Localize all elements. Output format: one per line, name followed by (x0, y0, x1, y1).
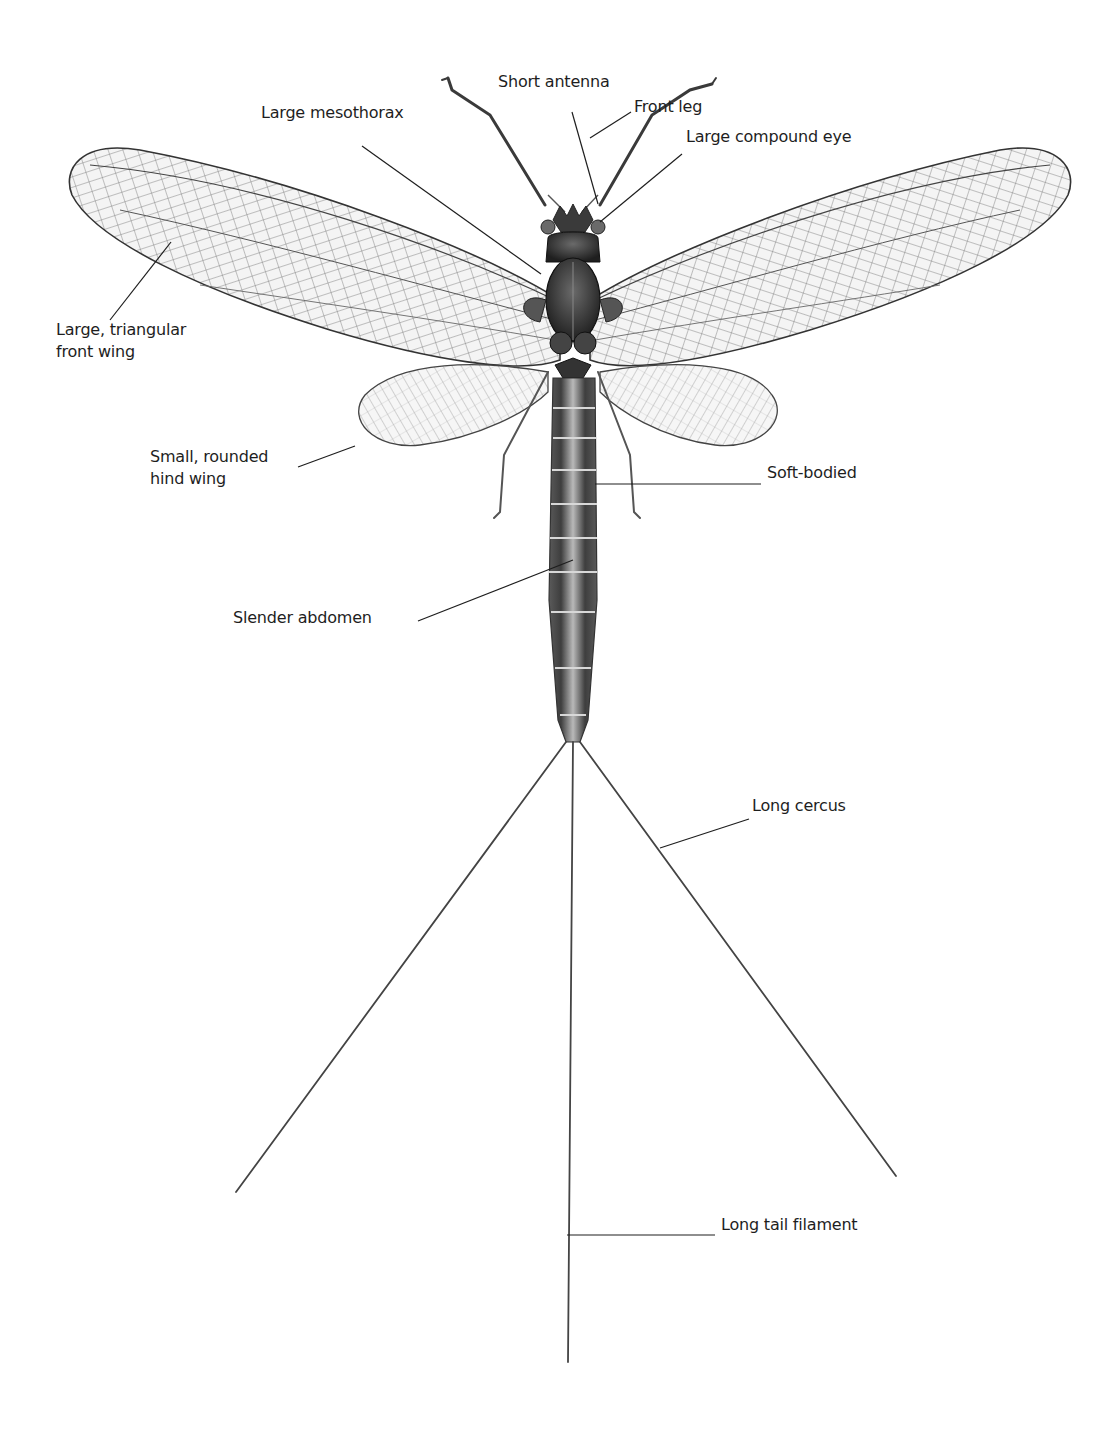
tails (236, 742, 896, 1362)
leader-line-large-compound-eye (600, 154, 682, 222)
hind-wing-right (600, 365, 777, 446)
label-soft-bodied: Soft-bodied (767, 462, 857, 484)
label-large-triangular-front-wing: Large, triangular front wing (56, 319, 186, 363)
label-short-antenna: Short antenna (498, 71, 610, 93)
label-large-compound-eye: Large compound eye (686, 126, 851, 148)
head (541, 204, 605, 234)
front-wing-right (590, 148, 1071, 366)
leader-line-long-cercus (660, 819, 749, 848)
leader-line-small-rounded-hind-wing (298, 446, 355, 467)
label-long-tail-filament: Long tail filament (721, 1214, 857, 1236)
hind-wing-left (359, 365, 548, 446)
leader-line-short-antenna (572, 112, 598, 204)
mayfly-illustration (0, 0, 1114, 1442)
label-slender-abdomen: Slender abdomen (233, 607, 372, 629)
leader-line-front-leg (590, 112, 631, 138)
label-small-rounded-hind-wing: Small, rounded hind wing (150, 446, 268, 490)
mayfly-diagram: Short antenna Front leg Large mesothorax… (0, 0, 1114, 1442)
label-large-mesothorax: Large mesothorax (261, 102, 404, 124)
label-front-leg: Front leg (634, 96, 702, 118)
label-long-cercus: Long cercus (752, 795, 846, 817)
